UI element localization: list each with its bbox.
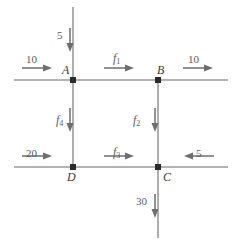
node-dot-B bbox=[155, 77, 161, 83]
flow-label-f2: f2 bbox=[133, 114, 140, 126]
flow-label-f4: f4 bbox=[56, 114, 63, 126]
node-label-D: D bbox=[67, 171, 76, 183]
flow-value-inflow-left-A: 10 bbox=[26, 54, 37, 65]
flow-label-f1: f1 bbox=[113, 52, 120, 64]
flow-diagram: A B C D 5 10 10 20 5 30 f1 f2 f3 f4 bbox=[0, 0, 238, 242]
arrow-outflow-right-B bbox=[183, 65, 213, 72]
flow-subscript-f4: 4 bbox=[59, 119, 63, 128]
node-dot-C bbox=[155, 164, 161, 170]
flow-subscript-f3: 3 bbox=[116, 151, 120, 160]
flow-value-inflow-top-A: 5 bbox=[57, 30, 63, 41]
node-label-C: C bbox=[163, 171, 171, 183]
flow-value-outflow-bottom-C: 30 bbox=[136, 196, 147, 207]
node-dot-A bbox=[70, 77, 76, 83]
flow-value-inflow-right-C: 5 bbox=[196, 148, 202, 159]
node-label-A: A bbox=[62, 64, 69, 76]
arrow-inflow-left-A bbox=[22, 65, 52, 72]
diagram-canvas bbox=[0, 0, 238, 242]
flow-subscript-f1: 1 bbox=[116, 57, 120, 66]
flow-label-f3: f3 bbox=[113, 146, 120, 158]
flow-value-inflow-left-D: 20 bbox=[26, 148, 37, 159]
flow-value-outflow-right-B: 10 bbox=[188, 54, 199, 65]
node-label-B: B bbox=[157, 64, 164, 76]
flow-subscript-f2: 2 bbox=[136, 119, 140, 128]
